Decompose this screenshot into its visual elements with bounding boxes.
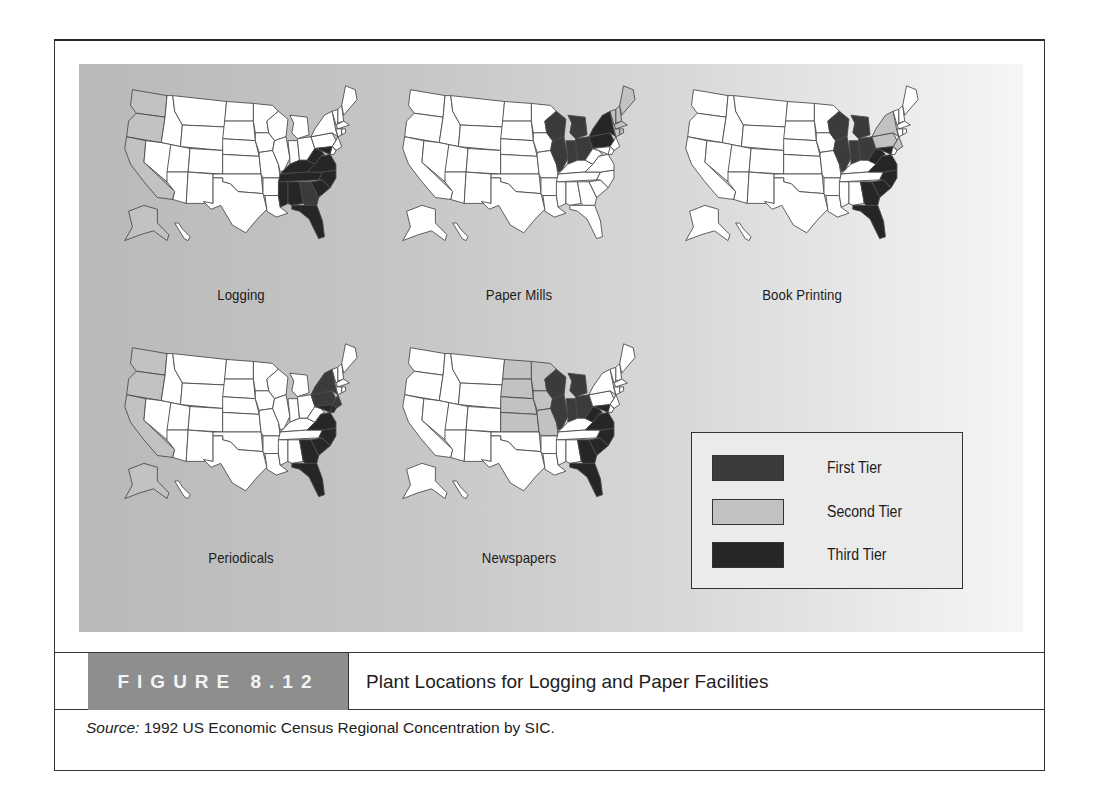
legend-item-first-tier: First Tier (712, 455, 952, 483)
state-fl (292, 205, 325, 238)
state-nd (786, 101, 815, 121)
state-nd (503, 101, 532, 121)
state-nm (186, 172, 213, 203)
state-fl (570, 205, 603, 238)
legend-item-second-tier: Second Tier (712, 499, 952, 527)
state-nm (186, 430, 213, 461)
state-mi (851, 115, 870, 139)
state-sd (223, 121, 256, 141)
state-me (620, 344, 635, 373)
state-ak (125, 205, 169, 240)
state-ri (620, 387, 624, 393)
legend-label-third-tier: Third Tier (827, 546, 886, 564)
state-mi (290, 373, 309, 397)
map-label-paper-mills: Paper Mills (413, 286, 624, 303)
state-hi (175, 223, 190, 241)
state-tn (278, 430, 322, 440)
state-ak (125, 463, 169, 498)
map-periodicals: Periodicals (121, 332, 361, 532)
map-book-printing: Book Printing (682, 74, 922, 274)
state-ri (620, 129, 624, 135)
state-ms (556, 440, 566, 465)
state-nd (225, 359, 254, 379)
map-newspapers: Newspapers (399, 332, 639, 532)
state-me (342, 344, 357, 373)
legend-swatch-second-tier (712, 499, 784, 525)
state-mt (451, 354, 505, 385)
state-co (188, 407, 223, 432)
state-ks (223, 412, 261, 432)
legend-label-second-tier: Second Tier (827, 503, 902, 521)
map-paper-mills: Paper Mills (399, 74, 639, 274)
state-ar (263, 436, 280, 454)
figure-caption-row: FIGURE 8.12 Plant Locations for Logging … (55, 652, 1044, 710)
us-map-logging (121, 74, 361, 254)
maps-panel: Logging Paper Mills Book Printing Period… (79, 64, 1023, 632)
state-me (620, 86, 635, 115)
state-ks (784, 154, 822, 174)
state-ri (903, 129, 907, 135)
state-wy (180, 125, 224, 150)
state-tn (556, 430, 600, 440)
us-map-newspapers (399, 332, 639, 512)
state-ks (501, 412, 539, 432)
state-ms (556, 182, 566, 207)
state-mi (568, 115, 587, 139)
state-ut (445, 403, 468, 430)
figure-title: Plant Locations for Logging and Paper Fa… (366, 653, 768, 710)
map-logging: Logging (121, 74, 361, 274)
state-wy (458, 383, 502, 408)
state-mi (290, 115, 309, 139)
state-tn (556, 172, 600, 182)
state-nm (464, 172, 491, 203)
legend-label-first-tier: First Tier (827, 459, 882, 477)
state-nm (464, 430, 491, 461)
map-legend: First Tier Second Tier Third Tier (691, 432, 963, 589)
state-nd (503, 359, 532, 379)
state-ut (167, 403, 190, 430)
figure-frame: Logging Paper Mills Book Printing Period… (54, 39, 1045, 771)
state-sd (501, 379, 534, 399)
state-ms (278, 182, 288, 207)
state-ne (223, 397, 259, 415)
map-label-periodicals: Periodicals (135, 549, 346, 566)
state-wy (180, 383, 224, 408)
state-ri (342, 129, 346, 135)
us-map-paper-mills (399, 74, 639, 254)
state-fl (570, 463, 603, 496)
state-co (466, 149, 501, 174)
state-tn (278, 172, 322, 182)
map-label-newspapers: Newspapers (413, 549, 624, 566)
state-ms (278, 440, 288, 465)
state-mt (173, 354, 227, 385)
figure-number-box: FIGURE 8.12 (88, 653, 349, 710)
state-sd (784, 121, 817, 141)
state-wy (458, 125, 502, 150)
state-ak (686, 205, 730, 240)
state-ne (501, 397, 537, 415)
state-ne (501, 139, 537, 157)
state-ut (167, 145, 190, 172)
state-ks (501, 154, 539, 174)
state-nd (225, 101, 254, 121)
map-label-book-printing: Book Printing (696, 286, 907, 303)
state-fl (292, 463, 325, 496)
state-co (188, 149, 223, 174)
state-ar (541, 436, 558, 454)
us-map-book-printing (682, 74, 922, 254)
state-tn (839, 172, 883, 182)
state-ri (342, 387, 346, 393)
map-label-logging: Logging (135, 286, 346, 303)
source-text: 1992 US Economic Census Regional Concent… (139, 719, 554, 736)
state-hi (453, 223, 468, 241)
state-ne (223, 139, 259, 157)
state-ak (403, 463, 447, 498)
state-mi (568, 373, 587, 397)
state-sd (501, 121, 534, 141)
legend-swatch-third-tier (712, 542, 784, 568)
state-hi (453, 481, 468, 499)
state-nm (747, 172, 774, 203)
state-wy (741, 125, 785, 150)
state-sd (223, 379, 256, 399)
state-mt (451, 96, 505, 127)
